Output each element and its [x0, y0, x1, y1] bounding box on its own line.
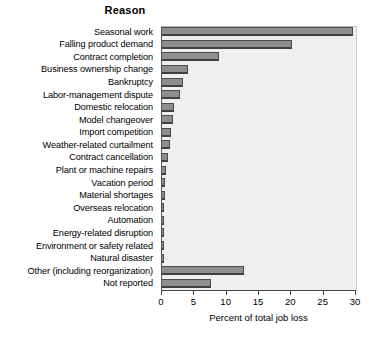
bar-row: [162, 254, 356, 266]
bar: [162, 52, 219, 61]
bar-chart: Reason Seasonal workFalling product dema…: [0, 0, 369, 338]
bar: [162, 153, 168, 162]
x-axis-tick-label: 5: [191, 296, 196, 307]
category-label: Contract completion: [0, 51, 157, 64]
bar: [162, 115, 173, 124]
bar-row: [162, 241, 356, 253]
bar-row: [162, 266, 356, 278]
bar-row: [162, 191, 356, 203]
bar: [162, 191, 165, 200]
category-label: Energy-related disruption: [0, 227, 157, 240]
plot-area: [161, 26, 357, 291]
x-axis-tick: [355, 290, 356, 295]
bar-row: [162, 279, 356, 291]
x-axis-tick: [323, 290, 324, 295]
bar-row: [162, 228, 356, 240]
category-axis-labels: Seasonal workFalling product demandContr…: [0, 26, 157, 290]
bar-row: [162, 103, 356, 115]
bar: [162, 78, 183, 87]
bar: [162, 254, 164, 263]
category-label: Contract cancellation: [0, 152, 157, 165]
category-label: Weather-related curtailment: [0, 139, 157, 152]
category-label: Import competition: [0, 127, 157, 140]
bar: [162, 27, 353, 36]
bar: [162, 128, 171, 137]
category-label: Not reported: [0, 278, 157, 291]
x-axis-tick-label: 0: [158, 296, 163, 307]
bar-row: [162, 40, 356, 52]
bar: [162, 241, 164, 250]
bar-row: [162, 90, 356, 102]
bar: [162, 40, 292, 49]
x-axis-title: Percent of total job loss: [161, 312, 356, 323]
x-axis-tick-label: 20: [285, 296, 296, 307]
bar: [162, 228, 164, 237]
bar: [162, 140, 170, 149]
bar: [162, 166, 166, 175]
category-label: Bankruptcy: [0, 76, 157, 89]
bar-row: [162, 140, 356, 152]
bar-row: [162, 178, 356, 190]
x-axis-tick-label: 15: [253, 296, 264, 307]
bar-row: [162, 128, 356, 140]
category-label: Business ownership change: [0, 64, 157, 77]
x-axis-tick-label: 10: [220, 296, 231, 307]
x-axis: 051015202530: [161, 290, 356, 291]
category-label: Domestic relocation: [0, 101, 157, 114]
bar: [162, 178, 165, 187]
bar: [162, 266, 244, 275]
bar: [162, 216, 164, 225]
category-label: Plant or machine repairs: [0, 164, 157, 177]
x-axis-tick: [226, 290, 227, 295]
category-label: Material shortages: [0, 190, 157, 203]
category-label: Model changeover: [0, 114, 157, 127]
bar-row: [162, 65, 356, 77]
bar: [162, 279, 211, 288]
x-axis-tick: [258, 290, 259, 295]
chart-title: Reason: [0, 4, 250, 16]
plot-inner: [162, 27, 356, 291]
category-label: Environment or safety related: [0, 240, 157, 253]
x-axis-tick: [290, 290, 291, 295]
bar: [162, 203, 164, 212]
bar: [162, 90, 180, 99]
category-label: Natural disaster: [0, 252, 157, 265]
bar-row: [162, 27, 356, 39]
bar-row: [162, 166, 356, 178]
bar-row: [162, 153, 356, 165]
bar: [162, 103, 174, 112]
bar-row: [162, 52, 356, 64]
category-label: Vacation period: [0, 177, 157, 190]
category-label: Overseas relocation: [0, 202, 157, 215]
bar-row: [162, 78, 356, 90]
category-label: Falling product demand: [0, 39, 157, 52]
bar-row: [162, 216, 356, 228]
category-label: Seasonal work: [0, 26, 157, 39]
category-label: Labor-management dispute: [0, 89, 157, 102]
bar-row: [162, 115, 356, 127]
bar-row: [162, 203, 356, 215]
x-axis-tick-label: 30: [350, 296, 361, 307]
category-label: Other (including reorganization): [0, 265, 157, 278]
bar: [162, 65, 188, 74]
x-axis-tick-label: 25: [317, 296, 328, 307]
x-axis-tick: [161, 290, 162, 295]
x-axis-tick: [193, 290, 194, 295]
category-label: Automation: [0, 215, 157, 228]
